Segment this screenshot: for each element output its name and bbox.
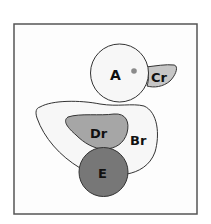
label-cr: Cr [151,70,168,85]
label-a: A [110,67,121,83]
label-dr: Dr [90,126,108,141]
eye-dot [131,68,137,74]
duck-diagram: A Cr Br Dr E [0,0,211,224]
label-e: E [98,166,107,181]
label-br: Br [130,133,147,148]
